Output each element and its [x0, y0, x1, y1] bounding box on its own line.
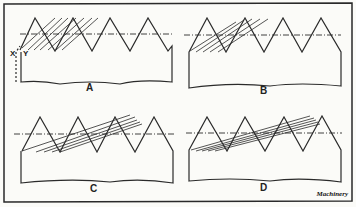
thread-cutting-diagram: [0, 0, 356, 207]
panel-d-drawing: [186, 116, 342, 182]
marker-x-label: X: [10, 49, 15, 58]
credit-text: Machinery: [317, 190, 349, 198]
marker-y-label: Y: [23, 49, 28, 58]
panel-a-drawing: [16, 18, 172, 84]
panel-c-drawing: [14, 115, 176, 183]
panel-label-b: B: [260, 85, 267, 96]
panel-label-d: D: [260, 182, 267, 193]
panel-label-c: C: [90, 183, 97, 194]
figure-border: [4, 3, 352, 202]
panel-b-drawing: [184, 18, 341, 88]
panel-label-a: A: [86, 82, 93, 93]
